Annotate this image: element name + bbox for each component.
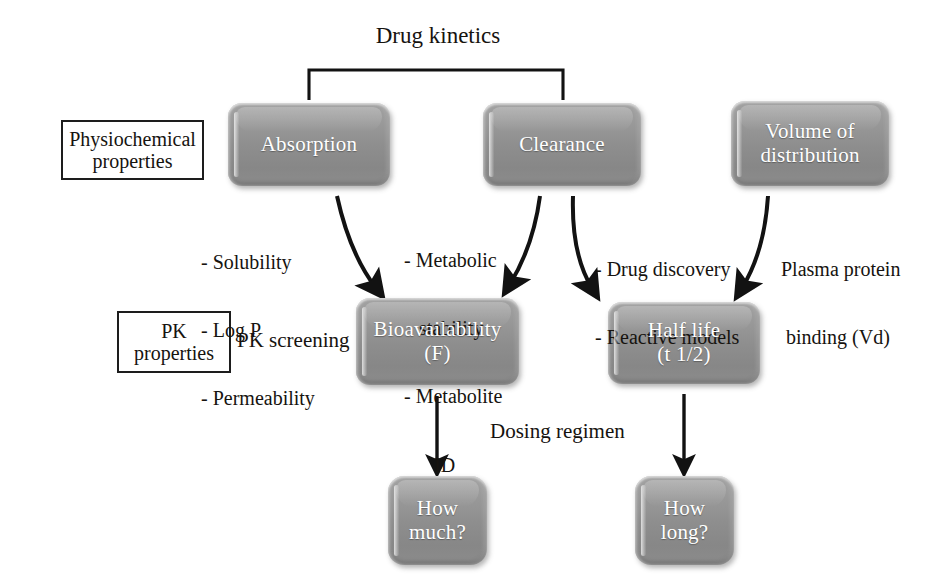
arrow-absorption-to-bioavailability — [337, 196, 376, 288]
node-bioavailability-line2: (F) — [374, 342, 502, 366]
drug-kinetics-bracket — [309, 70, 563, 100]
annotation-volume-plasma-binding: Plasma protein binding (Vd) — [781, 212, 900, 394]
node-half-life-line1: Half life — [648, 319, 720, 343]
annotation-absorption-line1: - Solubility — [201, 251, 315, 274]
node-volume-line1: Volume of — [760, 120, 859, 144]
row-label-physiochemical: Physiochemical properties — [61, 120, 204, 180]
node-how-long-line1: How — [661, 497, 709, 521]
dosing-regimen-label: Dosing regimen — [490, 420, 625, 444]
node-volume-line2: distribution — [760, 144, 859, 168]
drug-kinetics-label: Drug kinetics — [338, 23, 538, 49]
annotation-absorption-line2: - Log P — [201, 319, 315, 342]
arrow-clearance-to-bioavailability — [510, 196, 540, 284]
node-how-much-line1: How — [409, 497, 466, 521]
node-clearance[interactable]: Clearance — [483, 103, 641, 186]
annotation-metabolism-line4: ID — [404, 454, 502, 477]
node-absorption-line1: Absorption — [261, 133, 358, 157]
node-how-long[interactable]: How long? — [635, 476, 734, 565]
node-absorption[interactable]: Absorption — [228, 103, 390, 186]
node-clearance-line1: Clearance — [519, 133, 605, 157]
annotation-absorption-line3: - Permeability — [201, 387, 315, 410]
annotation-metabolism-line3: - Metabolite — [404, 385, 502, 408]
annotation-discovery-line1: - Drug discovery — [595, 258, 739, 281]
annotation-binding-line2: binding (Vd) — [781, 326, 900, 349]
diagram-canvas: Drug kinetics Physiochemical properties … — [0, 0, 940, 587]
row-label-physiochemical-line1: Physiochemical — [69, 128, 196, 150]
node-how-much-line2: much? — [409, 521, 466, 545]
annotation-absorption-properties: - Solubility - Log P - Permeability — [201, 205, 315, 456]
node-bioavailability-line1: Bioavailability — [374, 318, 502, 342]
node-how-long-line2: long? — [661, 521, 709, 545]
node-volume-of-distribution[interactable]: Volume of distribution — [731, 101, 889, 186]
annotation-binding-line1: Plasma protein — [781, 258, 900, 281]
node-half-life-line2: (t 1/2) — [648, 343, 720, 367]
arrow-volume-to-halflife — [742, 196, 768, 288]
annotation-metabolism-line1: - Metabolic — [404, 249, 502, 272]
arrow-clearance-to-halflife — [573, 196, 592, 288]
row-label-physiochemical-line2: properties — [69, 150, 196, 172]
